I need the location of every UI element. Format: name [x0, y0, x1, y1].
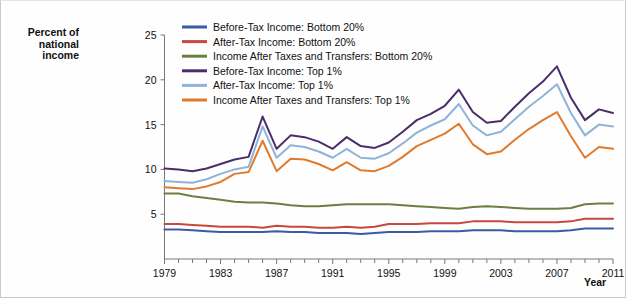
x-axis: 197919831987199119951999200320072011 [153, 259, 625, 279]
legend-label-2: Income After Taxes and Transfers: Bottom… [213, 50, 432, 62]
series-line-5 [165, 112, 614, 189]
y-tick-label: 10 [145, 163, 157, 175]
x-tick-label: 1983 [209, 267, 233, 279]
x-tick-label: 1987 [265, 267, 289, 279]
y-axis: 510152025 [145, 29, 165, 259]
y-tick-label: 5 [151, 208, 157, 220]
x-tick-label: 1995 [377, 267, 401, 279]
x-tick-label: 1979 [153, 267, 177, 279]
y-tick-label: 25 [145, 29, 157, 41]
data-series-group [165, 66, 614, 234]
legend-label-1: After-Tax Income: Bottom 20% [213, 36, 355, 48]
chart-figure: Percent of national income Year 51015202… [0, 0, 626, 298]
legend-label-5: Income After Taxes and Transfers: Top 1% [213, 94, 410, 106]
chart-legend: Before-Tax Income: Bottom 20%After-Tax I… [182, 21, 432, 106]
x-tick-label: 1991 [321, 267, 345, 279]
y-tick-label: 20 [145, 74, 157, 86]
legend-label-0: Before-Tax Income: Bottom 20% [213, 21, 364, 33]
x-tick-label: 2011 [602, 267, 625, 279]
x-tick-label: 2007 [545, 267, 569, 279]
series-line-1 [165, 219, 614, 228]
x-tick-label: 1999 [433, 267, 457, 279]
series-line-2 [165, 194, 614, 209]
legend-label-3: Before-Tax Income: Top 1% [213, 65, 342, 77]
y-tick-label: 15 [145, 119, 157, 131]
legend-label-4: After-Tax Income: Top 1% [213, 79, 333, 91]
x-tick-label: 2003 [489, 267, 513, 279]
series-line-0 [165, 229, 614, 234]
line-chart-plot: 510152025 197919831987199119951999200320… [1, 1, 626, 298]
